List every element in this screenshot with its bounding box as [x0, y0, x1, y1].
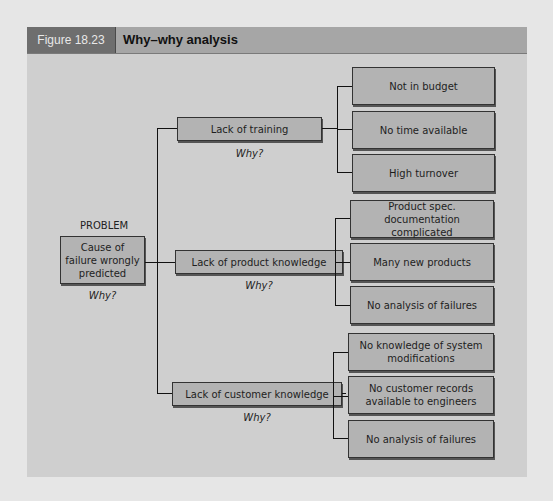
figure-header: Figure 18.23 Why–why analysis	[27, 27, 527, 54]
connector	[157, 393, 172, 394]
figure-title: Why–why analysis	[123, 27, 238, 53]
reason-box: No analysis of failures	[350, 286, 494, 324]
connector	[333, 396, 348, 397]
problem-why: Why?	[60, 290, 145, 301]
reason-box: High turnover	[352, 154, 495, 192]
figure-number: Figure 18.23	[27, 27, 116, 53]
cause-box: Lack of customer knowledge	[172, 382, 342, 406]
connector	[157, 128, 177, 129]
cause-why: Why?	[177, 148, 322, 159]
reason-box: No customer records available to enginee…	[348, 376, 494, 414]
cause-why: Why?	[172, 412, 342, 423]
reason-box: No knowledge of system modifications	[348, 333, 494, 371]
connector	[342, 393, 346, 394]
problem-box: Cause of failure wrongly predicted	[60, 236, 145, 284]
cause-why: Why?	[175, 280, 343, 291]
connector	[157, 262, 177, 263]
reason-box: Not in budget	[352, 67, 495, 105]
cause-box: Lack of product knowledge	[175, 250, 343, 274]
connector	[157, 128, 158, 394]
reason-box: No time available	[352, 111, 495, 149]
connector	[337, 129, 352, 130]
reason-box: Product spec. documentation complicated	[350, 200, 494, 238]
connector	[337, 86, 352, 87]
problem-heading: PROBLEM	[80, 220, 128, 231]
connector	[335, 218, 350, 219]
connector	[333, 438, 348, 439]
reason-box: Many new products	[350, 243, 494, 281]
connector	[322, 128, 337, 129]
connector	[145, 262, 157, 263]
connector	[333, 352, 348, 353]
cause-box: Lack of training	[177, 117, 322, 141]
reason-box: No analysis of failures	[348, 420, 494, 458]
connector	[337, 172, 352, 173]
connector	[335, 305, 350, 306]
connector	[335, 262, 350, 263]
